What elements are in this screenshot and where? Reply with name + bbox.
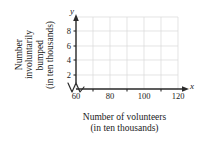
y-tick-label-8: 8 [59,27,71,36]
x-axis-variable-name: x [190,81,194,91]
y-tick-label-4: 4 [59,56,71,65]
x-axis-label-line-2: (in ten thousands) [48,123,201,134]
x-tick-label-120: 120 [168,92,188,101]
y-axis-variable-name: y [70,6,74,16]
x-axis-label-line-1: Number of volunteers [48,112,201,123]
chart-figure: Number involuntarily bumped (in ten thou… [0,0,201,141]
x-tick-label-80: 80 [100,92,120,101]
y-axis-arrow-icon [73,14,79,21]
grid-vertical [76,17,178,89]
y-tick-label-2: 2 [59,71,71,80]
x-axis-label: Number of volunteers (in ten thousands) [48,112,201,134]
x-tick-label-60: 60 [66,92,86,101]
x-tick-label-100: 100 [134,92,154,101]
y-tick-label-6: 6 [59,42,71,51]
